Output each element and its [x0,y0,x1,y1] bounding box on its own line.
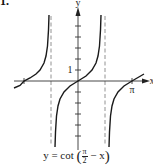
graph-figure: 1. [0,0,153,167]
y-tick-one-label: 1 [68,64,73,75]
curve-left-branch [14,15,49,88]
y-axis-arrow-icon [76,7,81,16]
curve-right-branch [109,74,144,147]
caption-suffix: − x [90,149,104,161]
caption-prefix: y = cot [43,149,74,161]
y-axis-label: y [76,0,81,8]
caption-fraction: π2 [82,148,88,165]
plot-area: y x 1 π [0,0,153,167]
figure-caption: y = cot (π2 − x) [0,148,153,165]
x-tick-pi-label: π [129,84,134,95]
x-axis-label: x [150,75,154,86]
y-axis [75,7,81,150]
figure-number: 1. [0,0,9,9]
